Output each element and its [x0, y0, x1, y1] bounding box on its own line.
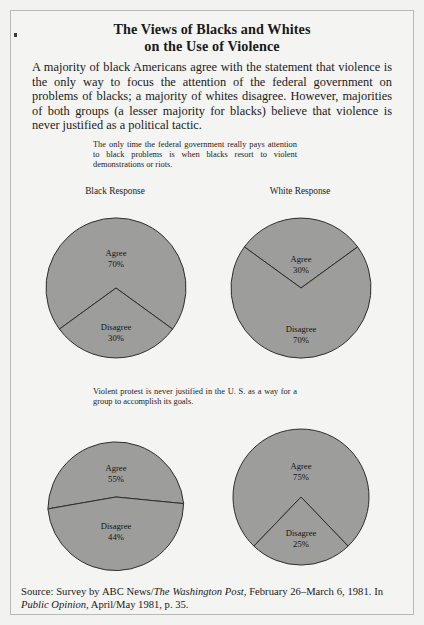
pie-value-agree: 75%	[293, 472, 309, 482]
pie-label-agree: Agree	[106, 463, 127, 473]
pie-value-agree: 30%	[293, 265, 309, 275]
source-middle: , February 26–March 6, 1981. In	[244, 586, 383, 597]
figure-page: The Views of Blacks and Whites on the Us…	[0, 0, 424, 625]
pie-label-agree: Agree	[291, 461, 312, 471]
source-publication-1: The Washington Post	[154, 586, 244, 597]
column-label-white-response: White Response	[240, 186, 360, 196]
chart-caption-1: The only time the federal government rea…	[93, 140, 297, 171]
pie-chart-black-violence-never-justified: Agree 55% Disagree 44%	[47, 428, 185, 566]
pie-value-disagree: 30%	[108, 333, 124, 343]
pie-value-agree: 55%	[108, 474, 124, 484]
pie-chart-white-violence-never-justified: Agree 75% Disagree 25%	[232, 428, 370, 566]
pie-chart-black-violence-attention: Agree 70% Disagree 30%	[45, 217, 187, 359]
pie-value-disagree: 70%	[293, 335, 309, 345]
pie-value-agree: 70%	[108, 259, 124, 269]
pie-value-disagree: 25%	[293, 539, 309, 549]
source-prefix: Source: Survey by ABC News/	[21, 586, 154, 597]
pie-label-agree: Agree	[291, 254, 312, 264]
page-title-line-2: on the Use of Violence	[144, 38, 279, 54]
source-suffix: , April/May 1981, p. 35.	[86, 599, 188, 610]
pie-value-disagree: 44%	[108, 532, 124, 542]
pie-label-agree: Agree	[106, 248, 127, 258]
intro-paragraph: A majority of black Americans agree with…	[11, 60, 413, 133]
source-publication-2: Public Opinion	[21, 599, 86, 610]
pie-label-disagree: Disagree	[286, 528, 317, 538]
pie-chart-white-violence-attention: Agree 30% Disagree 70%	[230, 217, 372, 359]
page-title-line-1: The Views of Blacks and Whites	[113, 21, 310, 37]
pie-label-disagree: Disagree	[286, 324, 317, 334]
page-title: The Views of Blacks and Whites on the Us…	[11, 11, 413, 54]
pie-label-disagree: Disagree	[101, 322, 132, 332]
column-label-black-response: Black Response	[55, 186, 175, 196]
source-note: Source: Survey by ABC News/The Washingto…	[21, 586, 383, 611]
chart-caption-2: Violent protest is never justified in th…	[93, 387, 297, 407]
pie-label-disagree: Disagree	[101, 521, 132, 531]
